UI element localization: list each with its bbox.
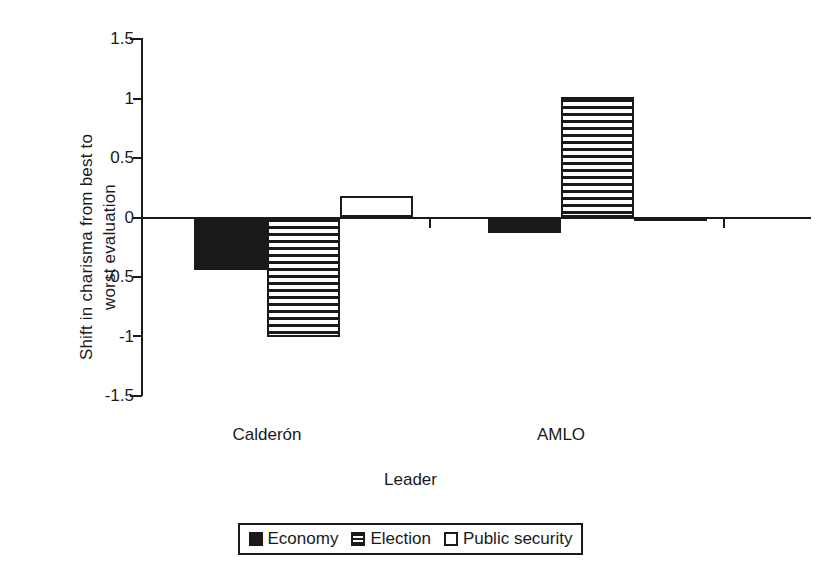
bar-calderon-public-security [340, 196, 413, 217]
legend-label-election: Election [370, 529, 430, 548]
y-tick-label-1: 1.5 [88, 30, 134, 47]
bar-amlo-election [561, 97, 634, 217]
y-tick-mark-6 [133, 335, 142, 337]
category-label-amlo: AMLO [488, 425, 634, 445]
legend-swatch-public-security-icon [444, 532, 458, 546]
x-axis-group-tick [429, 219, 431, 228]
bar-amlo-economy [488, 217, 561, 233]
legend-label-economy: Economy [268, 529, 339, 548]
y-tick-label-3: 0.5 [88, 149, 134, 166]
y-tick-mark-5 [133, 276, 142, 278]
y-tick-mark-1 [130, 38, 142, 40]
chart-legend: Economy Election Public security [238, 523, 584, 555]
y-tick-label-2: 1 [88, 90, 134, 107]
legend-item-public-security: Public security [444, 529, 573, 548]
legend-item-election: Election [351, 529, 430, 548]
y-tick-mark-3 [133, 157, 142, 159]
y-tick-label-7: -1.5 [88, 387, 134, 404]
bar-calderon-economy [194, 217, 267, 270]
x-axis-end-tick [723, 219, 725, 228]
legend-swatch-election-icon [351, 532, 365, 546]
y-tick-mark-4 [133, 217, 142, 219]
chart-figure: Shift in charisma from best toworst eval… [0, 0, 821, 587]
plot-area [143, 38, 811, 396]
y-axis-tick-labels: 1.5 1 0.5 0 -0.5 -1 -1.5 [78, 0, 134, 587]
y-tick-label-4: 0 [88, 209, 134, 226]
y-tick-label-6: -1 [88, 328, 134, 345]
legend-label-public-security: Public security [463, 529, 573, 548]
bar-amlo-public-security [634, 217, 707, 221]
legend-swatch-economy-icon [249, 532, 263, 546]
y-tick-mark-7 [130, 395, 142, 397]
x-axis-title: Leader [0, 470, 821, 490]
category-label-calderon: Calderón [194, 425, 340, 445]
y-tick-mark-2 [133, 98, 142, 100]
y-tick-label-5: -0.5 [88, 268, 134, 285]
bar-calderon-election [267, 217, 340, 337]
legend-item-economy: Economy [249, 529, 339, 548]
